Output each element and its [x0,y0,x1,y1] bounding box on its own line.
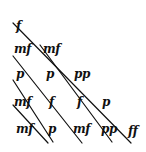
dynamic-mark-r4-c4: p [102,96,110,108]
dynamic-mark-r1-c1: f [16,20,21,32]
dynamic-mark-r4-c2: f [49,96,54,108]
dynamic-mark-r2-c1: mf [14,43,31,55]
dynamic-mark-r3-c3: pp [74,68,90,80]
dynamic-mark-r5-c2: p [48,123,56,135]
dynamic-mark-r5-c4: pp [101,123,117,135]
dynamic-mark-r5-c3: mf [73,123,90,135]
dynamic-mark-r2-c2: mf [43,43,60,55]
dynamic-mark-r5-c1: mf [16,123,33,135]
dynamic-mark-r3-c2: p [46,68,54,80]
dynamic-mark-r3-c1: p [16,68,24,80]
dynamic-mark-r4-c1: mf [14,96,31,108]
dynamics-diagram: f mf mf p p pp mf f f p mf p mf pp ff [0,0,146,152]
dynamic-mark-r4-c3: f [77,96,82,108]
dynamic-mark-r5-c5: ff [128,125,137,137]
